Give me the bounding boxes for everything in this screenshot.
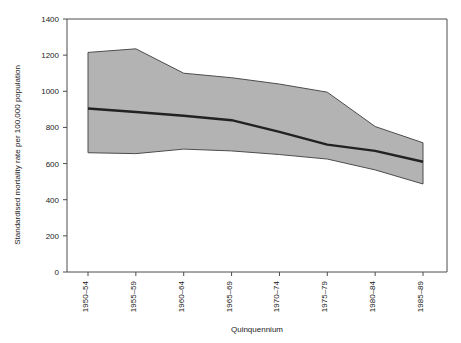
y-tick-label: 400 xyxy=(46,196,60,205)
x-tick-label: 1980–84 xyxy=(368,280,377,312)
y-tick-label: 800 xyxy=(46,123,60,132)
mortality-rate-area-chart: 0200400600800100012001400 1950–541955–59… xyxy=(0,0,461,343)
y-tick-label: 1400 xyxy=(41,15,59,24)
y-tick-label: 1200 xyxy=(41,51,59,60)
y-axis-title: Standardised mortality rate per 100,000 … xyxy=(13,65,22,245)
y-tick-label: 0 xyxy=(55,268,60,277)
x-tick-label: 1960–64 xyxy=(177,280,186,312)
y-tick-label: 1000 xyxy=(41,87,59,96)
x-tick-label: 1965–69 xyxy=(225,280,234,312)
x-tick-label: 1970–74 xyxy=(272,280,281,312)
y-tick-label: 200 xyxy=(46,232,60,241)
x-tick-label: 1950–54 xyxy=(81,280,90,312)
x-axis-title: Quinquennium xyxy=(231,325,283,334)
y-tick-label: 600 xyxy=(46,160,60,169)
chart-container: 0200400600800100012001400 1950–541955–59… xyxy=(0,0,461,343)
x-tick-label: 1955–59 xyxy=(129,280,138,312)
x-tick-label: 1975–79 xyxy=(320,280,329,312)
x-tick-label: 1985–89 xyxy=(416,280,425,312)
